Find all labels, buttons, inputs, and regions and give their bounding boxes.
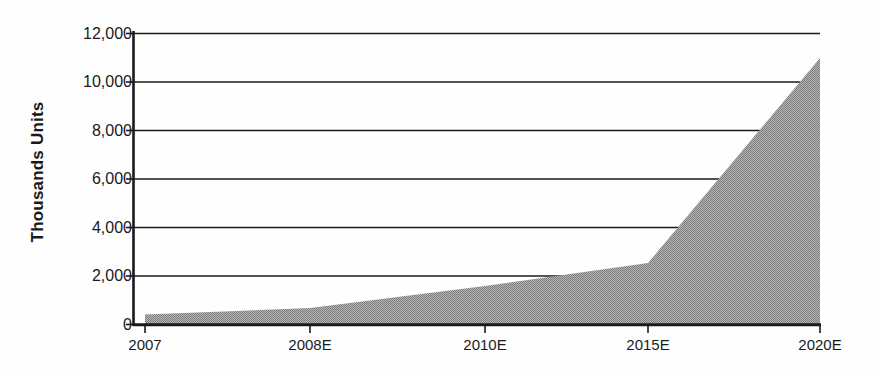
plot-area [0, 0, 876, 376]
area-chart: Thousands Units 0 2,000 4,000 6,000 8,00… [0, 0, 876, 376]
area-series-units [145, 58, 820, 325]
